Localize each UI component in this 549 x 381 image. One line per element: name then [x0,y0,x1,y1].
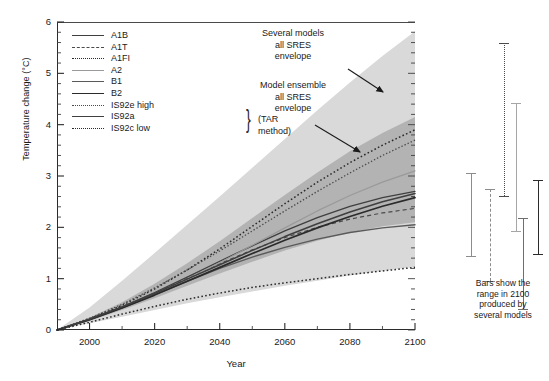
y-tick-label: 5 [31,67,51,78]
uncertainty-bar-6 [537,180,538,254]
legend-label-a1t: A1T [111,42,128,54]
chart-figure: 0123456 200020202040206020802100 Tempera… [0,0,549,381]
legend-label-a1fi: A1FI [111,53,130,65]
legend-swatch-is92a [72,116,104,117]
legend-label-is92e-high: IS92e high [111,100,154,112]
model-ensemble-line2: all SRES [228,92,358,104]
bar-cap-top [485,189,495,190]
several-models-annotation: Several models all SRES envelope [232,28,354,63]
uncertainty-bar-1 [470,173,471,255]
x-tick-label: 2000 [70,336,110,347]
bar-cap-bottom [466,256,476,257]
legend-swatch-is92e-high [72,105,104,106]
x-tick-label: 2100 [395,336,435,347]
several-models-line3: envelope [232,51,354,63]
y-tick-label: 0 [31,324,51,335]
legend-swatch-a1t [72,47,104,48]
several-models-line1: Several models [232,28,354,40]
legend-label-b2: B2 [111,88,122,100]
legend-label-b1: B1 [111,76,122,88]
legend-swatch-b2 [72,93,104,94]
legend-swatch-a1fi [72,58,104,59]
y-tick-label: 6 [31,16,51,27]
bar-stem [471,173,472,255]
uncertainty-bar-2 [489,189,490,281]
x-axis-title: Year [57,358,415,369]
legend-label-is92c-low: IS92c low [111,123,150,135]
bars-caption-line3: produced by [459,299,547,310]
y-tick-label: 4 [31,119,51,130]
bar-cap-bottom [499,196,509,197]
x-tick-label: 2040 [200,336,240,347]
bar-cap-top [533,180,543,181]
y-tick-label: 3 [31,170,51,181]
legend-label-a2: A2 [111,65,122,77]
bar-cap-bottom [511,231,521,232]
x-tick-label: 2060 [265,336,305,347]
uncertainty-bar-4 [515,103,516,231]
bars-caption-line4: several models [459,310,547,321]
legend-group-note: (TAR method) [258,114,291,137]
legend-label-is92a: IS92a [111,111,135,123]
x-tick-label: 2020 [135,336,175,347]
bars-caption-line2: range in 2100 [459,289,547,300]
legend-swatch-b1 [72,81,104,82]
bar-stem [538,180,539,254]
bar-cap-top [511,103,521,104]
uncertainty-bar-3 [503,43,504,196]
bar-cap-bottom [533,254,543,255]
bar-cap-top [518,218,528,219]
bar-cap-top [466,173,476,174]
y-tick-label: 2 [31,221,51,232]
y-axis-title: Temperature change (°C) [21,39,31,179]
legend-swatch-is92c-low [72,128,104,129]
model-ensemble-line3: envelope [228,103,358,115]
legend-swatch-a1b [72,35,104,36]
bar-stem [504,43,505,196]
model-ensemble-line1: Model ensemble [228,80,358,92]
model-ensemble-annotation: Model ensemble all SRES envelope [228,80,358,115]
y-tick-label: 1 [31,273,51,284]
bar-cap-top [499,43,509,44]
bar-stem [516,103,517,231]
bars-caption-line1: Bars show the [459,278,547,289]
bars-caption: Bars show the range in 2100 produced by … [459,278,547,320]
bar-stem [490,189,491,281]
legend-swatch-a2 [72,70,104,71]
x-tick-label: 2080 [330,336,370,347]
several-models-line2: all SRES [232,40,354,52]
legend-label-a1b: A1B [111,30,128,42]
